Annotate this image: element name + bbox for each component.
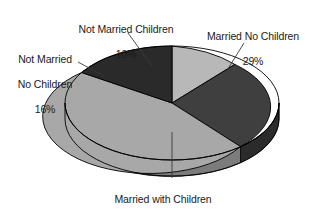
pie-label-married-with-children: Married with Children 45% [92,180,234,213]
pie-label-not-married-children-name: Not Married Children [56,23,196,36]
pie-label-not-married-no-children-percent: 16% [2,103,88,116]
pie-label-not-married-no-children-name-line1: Not Married [2,53,88,66]
pie-label-not-married-no-children-name-line2: No Children [2,78,88,91]
pie-label-married-no-children-percent: 29% [192,55,314,68]
pie-label-married-no-children: Married No Children 29% [192,17,314,80]
pie-label-not-married-no-children: Not Married No Children 16% [2,40,88,128]
pie-label-married-no-children-name: Married No Children [192,30,314,43]
pie-chart-figure: Not Married Children 10% Married No Chil… [0,0,316,213]
pie-label-married-with-children-name: Married with Children [92,193,234,206]
